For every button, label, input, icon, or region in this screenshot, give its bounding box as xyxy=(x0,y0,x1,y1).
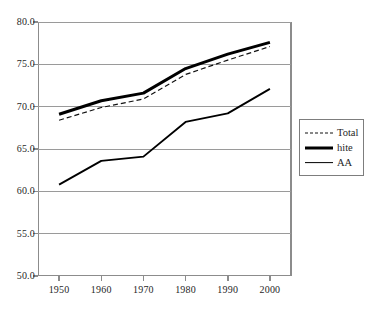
gridline xyxy=(38,149,291,150)
legend-swatch-dashed-line-icon xyxy=(305,127,335,139)
gridline xyxy=(38,64,291,65)
legend-item-total: Total xyxy=(305,125,359,140)
y-axis-tick-label: 50.0 xyxy=(0,271,35,281)
x-axis-tick-mark xyxy=(185,276,187,281)
legend-label-aa: AA xyxy=(335,157,352,169)
x-axis-tick-mark xyxy=(143,276,145,281)
gridline xyxy=(38,106,291,107)
y-axis-tick-label: 65.0 xyxy=(0,144,35,154)
legend: Total hite AA xyxy=(299,119,364,176)
gridline xyxy=(38,22,291,23)
x-axis-tick-label: 2000 xyxy=(247,284,293,295)
x-axis-tick-mark xyxy=(58,276,60,281)
x-axis-tick-mark xyxy=(269,276,271,281)
line-chart: 50.055.060.065.070.075.080.0 19501960197… xyxy=(0,0,371,310)
x-axis-tick-label: 1980 xyxy=(163,284,209,295)
legend-item-aa: AA xyxy=(305,155,359,170)
y-axis-tick-label: 55.0 xyxy=(0,229,35,239)
y-axis-tick-label: 80.0 xyxy=(0,17,35,27)
x-axis-tick-label: 1960 xyxy=(78,284,124,295)
gridline xyxy=(38,233,291,234)
x-axis-tick-label: 1950 xyxy=(36,284,82,295)
legend-swatch-solid-line-icon xyxy=(305,157,335,169)
legend-item-hite: hite xyxy=(305,140,359,155)
legend-label-total: Total xyxy=(335,127,358,139)
legend-swatch-thick-line-icon xyxy=(305,142,335,154)
gridline xyxy=(38,191,291,192)
x-axis-tick-label: 1990 xyxy=(205,284,251,295)
y-axis-tick-label: 70.0 xyxy=(0,102,35,112)
y-axis-tick-label: 75.0 xyxy=(0,59,35,69)
x-axis-tick-mark xyxy=(227,276,229,281)
x-axis-tick-mark xyxy=(101,276,103,281)
legend-label-hite: hite xyxy=(335,142,353,154)
y-axis-tick-label: 60.0 xyxy=(0,186,35,196)
x-axis-tick-label: 1970 xyxy=(120,284,166,295)
